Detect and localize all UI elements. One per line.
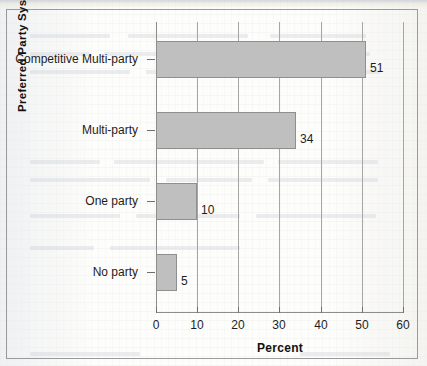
x-tick-label-10: 10 xyxy=(190,318,203,332)
y-axis-title: Preferred Party System xyxy=(16,0,28,112)
chart-figure: 51 34 10 5 Competitive Multi-party Multi… xyxy=(0,0,427,366)
bar-no-party xyxy=(156,254,177,291)
y-axis-line xyxy=(156,22,157,313)
plot-area xyxy=(156,22,403,312)
category-label-text: One party xyxy=(85,194,138,208)
x-tick-40 xyxy=(321,307,322,313)
y-tick-multi-party xyxy=(147,130,155,131)
x-tick-60 xyxy=(403,307,404,313)
bar-multi-party xyxy=(156,112,296,149)
x-axis-line xyxy=(156,312,404,313)
x-tick-label-40: 40 xyxy=(314,318,327,332)
category-label-text: No party xyxy=(93,265,138,279)
bar-value-multi-party: 34 xyxy=(300,132,314,146)
x-tick-label-60: 60 xyxy=(396,318,409,332)
scan-top-bleed xyxy=(0,0,427,9)
bar-competitive-multi-party xyxy=(156,41,366,78)
x-tick-label-30: 30 xyxy=(272,318,285,332)
category-label-no-party: No party xyxy=(0,265,138,279)
x-axis-title: Percent xyxy=(156,341,404,355)
y-tick-competitive-multi-party xyxy=(147,59,155,60)
category-label-text: Multi-party xyxy=(82,123,138,137)
category-label-multi-party: Multi-party xyxy=(0,123,138,137)
bar-value-no-party: 5 xyxy=(181,274,188,288)
x-tick-0 xyxy=(156,307,157,313)
y-tick-one-party xyxy=(147,201,155,202)
x-tick-label-0: 0 xyxy=(153,318,160,332)
x-tick-label-20: 20 xyxy=(231,318,244,332)
x-tick-30 xyxy=(279,307,280,313)
x-tick-label-50: 50 xyxy=(355,318,368,332)
bar-value-one-party: 10 xyxy=(201,203,215,217)
category-label-one-party: One party xyxy=(0,194,138,208)
y-tick-no-party xyxy=(147,272,155,273)
bar-one-party xyxy=(156,183,197,220)
category-label-text: Competitive Multi-party xyxy=(15,52,138,66)
x-tick-10 xyxy=(197,307,198,313)
bar-value-competitive-multi-party: 51 xyxy=(370,61,384,75)
x-tick-20 xyxy=(238,307,239,313)
gridline-60 xyxy=(403,22,404,312)
x-tick-50 xyxy=(362,307,363,313)
